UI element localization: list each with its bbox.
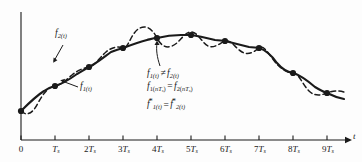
ann2-sub2-post: ): [191, 85, 193, 92]
sample-dot: [120, 45, 126, 51]
leader-f2: [54, 45, 63, 61]
ann2-operator: =: [166, 81, 174, 91]
tick-5-sub: s: [196, 147, 198, 154]
tick-label-7ts: 7Ts: [250, 145, 270, 155]
sample-dot: [256, 45, 262, 51]
ann2-sub1: 1(nTs): [150, 85, 166, 92]
tick-label-1ts: Ts: [48, 145, 64, 155]
x-axis-label: t: [353, 132, 356, 141]
sample-dot: [222, 38, 228, 44]
sample-dot: [86, 64, 92, 70]
annotation-line-2: f1(nTs)=f2(nTs): [147, 81, 193, 96]
tick-0-num: 0: [19, 144, 24, 154]
ann1-operator: ≠: [159, 68, 167, 78]
leader-annotation: [157, 43, 160, 66]
sample-dot: [324, 90, 330, 96]
curve-label-f2-sub: 2(t): [58, 32, 67, 39]
tick-7-sub: s: [264, 147, 266, 154]
ann3-operator: =: [162, 100, 170, 110]
curve-label-f1: f1(t): [80, 82, 92, 92]
ann1-sub1: 1(t): [150, 72, 159, 79]
tick-2-sub: s: [94, 147, 96, 154]
tick-label-2ts: 2Ts: [80, 145, 100, 155]
tick-6-sub: s: [230, 147, 232, 154]
sampling-aliasing-figure: f2(t) f1(t) f1(t)≠f2(t) f1(nTs)=f2(nTs) …: [0, 0, 362, 162]
ann3-sub2: 2(t): [176, 103, 185, 110]
ann3-sub1: 1(t): [153, 103, 162, 110]
annotation-line-3: f*1(t)=f*2(t): [147, 96, 193, 112]
tick-label-4ts: 4Ts: [148, 145, 168, 155]
tick-label-5ts: 5Ts: [182, 145, 202, 155]
tick-1-sub: s: [57, 147, 59, 154]
leader-f1: [62, 81, 78, 87]
tick-8-sub: s: [298, 147, 300, 154]
tick-label-6ts: 6Ts: [216, 145, 236, 155]
sample-dot: [188, 32, 194, 38]
tick-label-8ts: 8Ts: [284, 145, 304, 155]
tick-3-sub: s: [128, 147, 130, 154]
tick-9-sub: s: [332, 147, 334, 154]
sample-dot: [18, 108, 24, 114]
curve-label-f2: f2(t): [55, 29, 67, 39]
annotation-line-1: f1(t)≠f2(t): [147, 68, 193, 81]
tick-label-3ts: 3Ts: [114, 145, 134, 155]
sample-dot: [290, 70, 296, 76]
tick-4-sub: s: [162, 147, 164, 154]
annotation-block: f1(t)≠f2(t) f1(nTs)=f2(nTs) f*1(t)=f*2(t…: [147, 68, 193, 113]
x-axis-arrowhead: [345, 137, 352, 143]
curve-label-f1-sub: 1(t): [83, 85, 92, 92]
ann2-sub2: 2(nTs): [177, 85, 193, 92]
sample-dot: [52, 83, 58, 89]
x-axis-ticks: [21, 136, 327, 141]
sample-dot: [154, 35, 160, 41]
ann1-sub2: 2(t): [170, 72, 179, 79]
tick-label-9ts: 9Ts: [318, 145, 338, 155]
tick-label-0: 0: [14, 145, 28, 154]
